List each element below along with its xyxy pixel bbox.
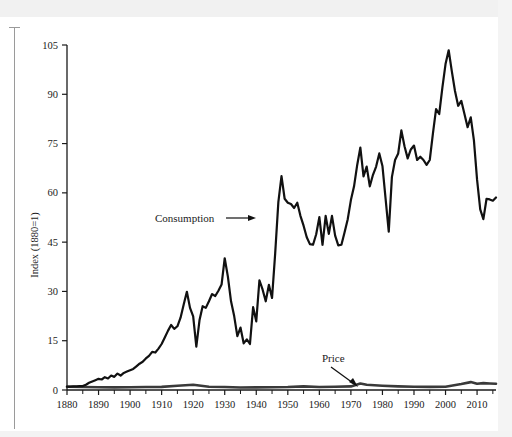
figure-page: 0153045607590105 Index (1880=1) 18801890… (0, 0, 512, 437)
x-tick-label: 1950 (277, 399, 298, 410)
x-axis-tick-labels: 1880189019001910192019301940195019601970… (57, 399, 488, 410)
y-axis-ticks (62, 45, 67, 390)
x-tick-label: 1890 (88, 399, 109, 410)
price-label: Price (322, 352, 345, 364)
x-tick-label: 2010 (467, 399, 488, 410)
y-tick-label: 105 (42, 40, 58, 51)
y-axis-tick-labels: 0153045607590105 (42, 40, 58, 396)
x-tick-label: 1980 (372, 399, 393, 410)
annotation-consumption: Consumption (155, 212, 256, 224)
y-tick-label: 30 (48, 286, 59, 297)
x-tick-label: 2000 (435, 399, 456, 410)
x-axis: 1880189019001910192019301940195019601970… (57, 390, 497, 410)
y-tick-label: 90 (48, 89, 59, 100)
annotation-price: Price (322, 352, 358, 387)
consumption-label: Consumption (155, 212, 215, 224)
series-line-price (67, 382, 496, 387)
x-tick-label: 1960 (309, 399, 330, 410)
y-tick-label: 45 (48, 237, 59, 248)
x-tick-label: 1900 (120, 399, 141, 410)
line-chart: 0153045607590105 Index (1880=1) 18801890… (0, 0, 512, 437)
y-tick-label: 60 (48, 187, 59, 198)
y-axis-title: Index (1880=1) (29, 212, 41, 278)
price-arrow-shaft (331, 367, 353, 383)
series-line-consumption (67, 50, 496, 386)
y-tick-label: 15 (48, 335, 59, 346)
y-axis: 0153045607590105 Index (1880=1) (29, 40, 67, 396)
x-tick-label: 1970 (340, 399, 361, 410)
x-tick-label: 1930 (214, 399, 235, 410)
y-tick-label: 75 (48, 138, 59, 149)
data-series-group (67, 50, 496, 387)
x-tick-label: 1910 (151, 399, 172, 410)
x-tick-label: 1880 (57, 399, 78, 410)
x-tick-label: 1990 (403, 399, 424, 410)
consumption-arrow-head (248, 215, 256, 221)
x-tick-label: 1920 (183, 399, 204, 410)
y-tick-label: 0 (53, 385, 58, 396)
x-tick-label: 1940 (246, 399, 267, 410)
